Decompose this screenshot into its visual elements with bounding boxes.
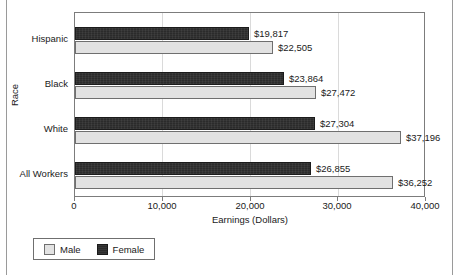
bar-group-all-workers: $26,855 $36,252 [75, 162, 424, 190]
y-axis-label-black: Black [0, 78, 68, 89]
bar-group-white: $27,304 $37,196 [75, 117, 424, 145]
bar-label-black-male: $27,472 [321, 86, 355, 99]
chart-legend: Male Female [33, 238, 155, 260]
legend-label-male: Male [60, 244, 81, 255]
bar-group-hispanic: $19,817 $22,505 [75, 27, 424, 55]
chart-figure: Race Hispanic Black White All Workers $1… [0, 0, 459, 275]
bar-hispanic-female[interactable] [75, 27, 249, 40]
bar-label-all-workers-female: $26,855 [316, 162, 350, 175]
bar-label-hispanic-female: $19,817 [254, 27, 288, 40]
page-frame-right-rule [452, 0, 453, 275]
bar-label-all-workers-male: $36,252 [398, 176, 432, 189]
x-axis-label-40000: 40,000 [410, 200, 439, 211]
bar-all-workers-male[interactable] [75, 176, 393, 189]
legend-label-female: Female [113, 244, 145, 255]
legend-item-male[interactable]: Male [44, 244, 81, 255]
bar-white-female[interactable] [75, 117, 315, 130]
bar-white-male[interactable] [75, 131, 401, 144]
y-axis-label-all-workers: All Workers [0, 168, 68, 179]
x-axis-label-0: 0 [71, 200, 76, 211]
x-axis-title: Earnings (Dollars) [212, 214, 288, 225]
bar-label-white-female: $27,304 [320, 117, 354, 130]
bar-group-black: $23,864 $27,472 [75, 72, 424, 100]
bar-black-male[interactable] [75, 86, 316, 99]
plot-area: $19,817 $22,505 $23,864 $27,472 $27,304 … [74, 12, 425, 197]
legend-item-female[interactable]: Female [97, 244, 145, 255]
x-axis-label-20000: 20,000 [235, 200, 264, 211]
x-axis-label-10000: 10,000 [147, 200, 176, 211]
bar-all-workers-female[interactable] [75, 162, 311, 175]
bars-layer: $19,817 $22,505 $23,864 $27,472 $27,304 … [75, 13, 424, 196]
x-axis-label-30000: 30,000 [322, 200, 351, 211]
y-axis-label-hispanic: Hispanic [0, 33, 68, 44]
bar-label-white-male: $37,196 [406, 131, 440, 144]
bar-black-female[interactable] [75, 72, 284, 85]
bar-label-hispanic-male: $22,505 [278, 41, 312, 54]
bar-hispanic-male[interactable] [75, 41, 273, 54]
light-swatch-icon [44, 244, 55, 255]
dark-swatch-icon [97, 244, 108, 255]
y-axis-label-white: White [0, 123, 68, 134]
bar-label-black-female: $23,864 [289, 72, 323, 85]
